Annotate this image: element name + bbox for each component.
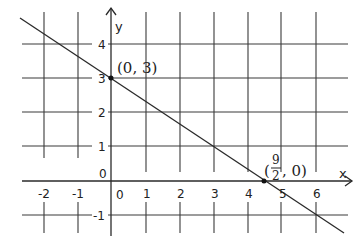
y-tick-0: 0 bbox=[99, 167, 107, 181]
x-tick-labels: -2 -1 0 1 2 3 4 5 6 bbox=[38, 187, 321, 202]
grid bbox=[22, 12, 348, 233]
axes bbox=[22, 8, 352, 236]
x-tick-4: 4 bbox=[245, 187, 253, 201]
x-tick-6: 6 bbox=[313, 187, 321, 201]
y-tick-3: 3 bbox=[98, 72, 106, 86]
point-0-3 bbox=[109, 76, 114, 81]
point-label-9-2-0: ( 9 2 , 0) bbox=[264, 153, 307, 183]
x-tick-5: 5 bbox=[279, 187, 287, 201]
y-axis-label: y bbox=[115, 19, 123, 34]
x-tick-3: 3 bbox=[211, 187, 219, 201]
point2-open-paren: ( bbox=[264, 162, 270, 180]
x-axis-label: x bbox=[339, 166, 347, 181]
point2-numerator: 9 bbox=[272, 153, 280, 167]
x-tick-2: 2 bbox=[177, 187, 185, 201]
y-tick-labels: 4 3 2 1 0 -1 bbox=[93, 38, 107, 223]
y-tick-neg1: -1 bbox=[93, 209, 105, 223]
coordinate-plane: 4 3 2 1 0 -1 -2 -1 0 1 2 3 4 5 6 y x (0,… bbox=[0, 0, 361, 249]
point2-denominator: 2 bbox=[272, 169, 280, 183]
x-tick-neg1: -1 bbox=[72, 187, 84, 201]
y-tick-4: 4 bbox=[98, 38, 106, 52]
x-tick-neg2: -2 bbox=[38, 187, 50, 201]
point2-rest: , 0) bbox=[282, 162, 307, 180]
x-tick-0: 0 bbox=[116, 188, 124, 202]
x-tick-1: 1 bbox=[143, 187, 151, 201]
y-tick-2: 2 bbox=[98, 106, 106, 120]
point-label-0-3: (0, 3) bbox=[117, 59, 157, 77]
y-tick-1: 1 bbox=[98, 140, 106, 154]
